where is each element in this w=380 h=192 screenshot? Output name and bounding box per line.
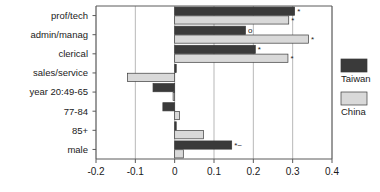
significance-marker-taiwan-0: * bbox=[297, 7, 300, 16]
x-tick-label-3: 0.1 bbox=[207, 166, 221, 177]
category-label-2: clerical bbox=[58, 48, 88, 59]
significance-marker-china-0: * bbox=[291, 16, 294, 25]
category-label-3: sales/service bbox=[33, 67, 88, 78]
significance-marker-china-2: * bbox=[290, 54, 293, 63]
bar-taiwan-7 bbox=[175, 141, 232, 149]
category-label-0: prof/tech bbox=[51, 10, 88, 21]
significance-marker-china-1: * bbox=[311, 35, 314, 44]
bar-china-7 bbox=[175, 150, 184, 158]
legend-swatch-china bbox=[341, 92, 367, 105]
x-tick-label-2: 0 bbox=[172, 166, 178, 177]
bar-taiwan-5 bbox=[163, 103, 175, 111]
category-label-1: admin/manag bbox=[30, 29, 88, 40]
x-tick-label-4: 0.2 bbox=[246, 166, 260, 177]
category-label-4: year 20:49-65 bbox=[29, 86, 88, 97]
bar-china-4 bbox=[173, 92, 175, 100]
bar-taiwan-6 bbox=[175, 122, 177, 130]
x-tick-label-5: 0.3 bbox=[286, 166, 300, 177]
bar-taiwan-4 bbox=[153, 84, 175, 92]
bar-taiwan-1 bbox=[175, 26, 246, 34]
significance-marker-taiwan-2: * bbox=[258, 45, 261, 54]
category-label-5: 77-84 bbox=[64, 106, 88, 117]
category-label-7: male bbox=[67, 144, 88, 155]
legend-label-taiwan: Taiwan bbox=[341, 73, 371, 84]
bar-china-0 bbox=[175, 16, 289, 24]
bar-china-3 bbox=[127, 73, 174, 81]
legend-swatch-taiwan bbox=[341, 59, 367, 72]
bar-china-2 bbox=[175, 54, 288, 62]
category-label-6: 85+ bbox=[72, 125, 89, 136]
legend-label-china: China bbox=[341, 106, 367, 117]
x-tick-label-0: -0.2 bbox=[87, 166, 105, 177]
x-tick-label-1: -0.1 bbox=[127, 166, 145, 177]
bar-taiwan-0 bbox=[175, 7, 295, 15]
bar-china-5 bbox=[175, 111, 180, 119]
bar-china-6 bbox=[175, 131, 204, 139]
bar-taiwan-2 bbox=[175, 45, 256, 53]
significance-marker-taiwan-1: o bbox=[248, 26, 253, 35]
x-tick-label-6: 0.4 bbox=[325, 166, 339, 177]
bar-taiwan-3 bbox=[175, 64, 177, 72]
horizontal-bar-chart: -0.2-0.100.10.20.30.4 prof/techadmin/man… bbox=[0, 0, 380, 192]
bar-china-1 bbox=[175, 35, 309, 43]
significance-marker-taiwan-7: *~ bbox=[234, 141, 242, 150]
